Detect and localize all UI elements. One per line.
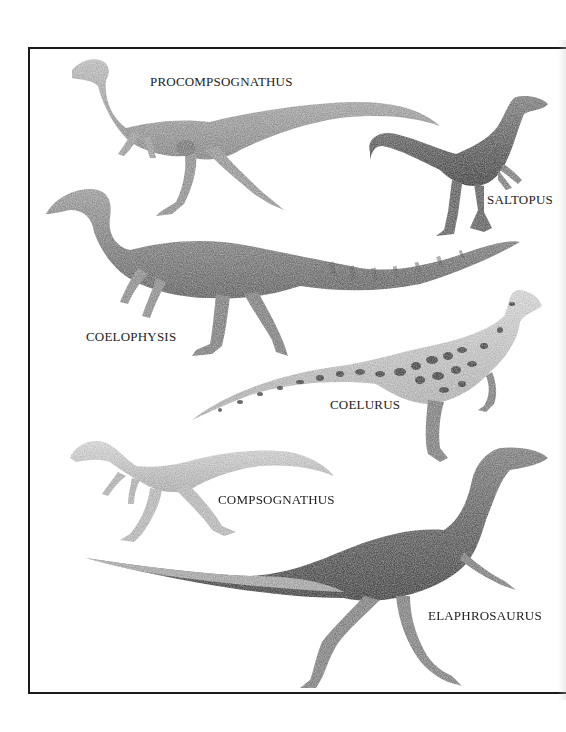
coelurus-figure (192, 290, 542, 462)
label-saltopus: SALTOPUS (487, 193, 553, 206)
saltopus-figure (369, 96, 548, 236)
label-compsognathus: COMPSOGNATHUS (218, 493, 335, 506)
label-coelophysis: COELOPHYSIS (86, 330, 176, 343)
label-coelurus: COELURUS (330, 398, 400, 411)
label-elaphrosaurus: ELAPHROSAURUS (428, 609, 542, 622)
label-procompsognathus: PROCOMPSOGNATHUS (150, 75, 293, 88)
